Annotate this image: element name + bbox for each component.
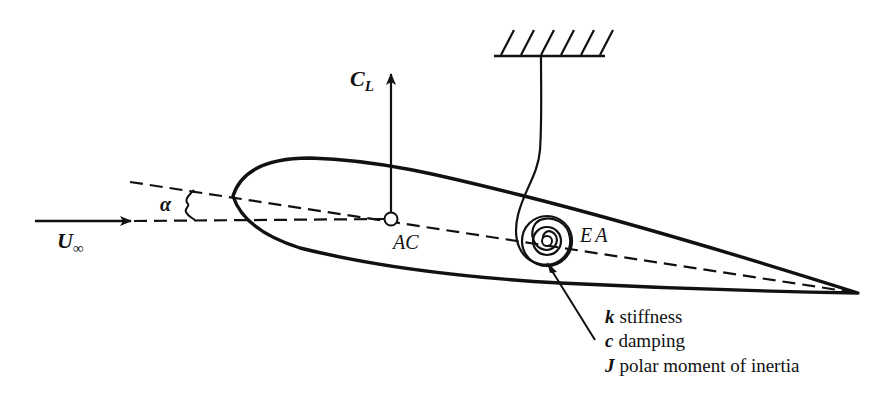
- legend-text: polar moment of inertia: [620, 355, 800, 376]
- legend-symbol: J: [605, 355, 615, 376]
- ground-hatching: [501, 30, 613, 55]
- airfoil-diagram: [0, 0, 888, 396]
- elastic-axis-center: [542, 236, 552, 246]
- aerodynamic-center-marker: [385, 213, 398, 226]
- legend-text: damping: [618, 330, 685, 351]
- legend-text: stiffness: [620, 306, 683, 327]
- freestream-label: U∞: [57, 228, 84, 257]
- lift-symbol: C: [350, 66, 365, 91]
- angle-of-attack-label: α: [160, 193, 171, 216]
- chord-line: [130, 182, 858, 293]
- legend-leader-line: [549, 266, 595, 340]
- legend-symbol: c: [605, 330, 613, 351]
- aerodynamic-center-label: AC: [393, 231, 419, 254]
- lift-coefficient-label: CL: [350, 66, 374, 95]
- freestream-symbol: U: [57, 228, 73, 253]
- angle-bracket: [186, 190, 195, 220]
- legend-item-inertia: Jpolar moment of inertia: [605, 355, 799, 377]
- legend-item-stiffness: kstiffness: [605, 306, 682, 328]
- lift-subscript: L: [365, 78, 374, 94]
- legend-item-damping: cdamping: [605, 330, 685, 352]
- freestream-subscript: ∞: [73, 240, 84, 256]
- elastic-axis-label: EA: [580, 224, 610, 247]
- airfoil-outline: [233, 158, 858, 293]
- freestream-reference-line: [134, 219, 384, 221]
- legend-symbol: k: [605, 306, 615, 327]
